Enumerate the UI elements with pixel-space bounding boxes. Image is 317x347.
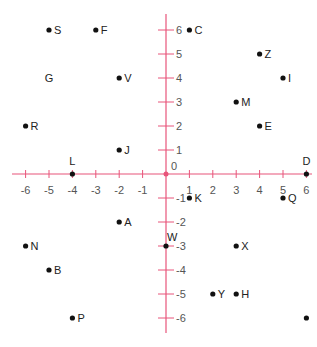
point-label: W (167, 231, 178, 243)
y-tick-label: -2 (176, 216, 186, 228)
point-r: R (23, 120, 39, 132)
point-n: N (23, 240, 39, 252)
point-dot (210, 291, 215, 296)
point-s: S (46, 24, 61, 36)
point-dot (234, 291, 239, 296)
point-label: Z (265, 48, 272, 60)
point-dot (234, 99, 239, 104)
point-dot (70, 315, 75, 320)
x-tick-label: -5 (44, 184, 54, 196)
point-dot (304, 315, 309, 320)
x-tick-label: 4 (257, 184, 263, 196)
y-tick-label: 2 (176, 120, 182, 132)
point-label: L (69, 155, 75, 167)
point-dot (117, 147, 122, 152)
point-x: X (234, 240, 250, 252)
point-d: D (302, 155, 310, 177)
point-dot (187, 27, 192, 32)
point-z: Z (257, 48, 272, 60)
point-v: V (117, 72, 133, 84)
point-label: Y (218, 288, 226, 300)
point-label: H (241, 288, 249, 300)
point-p: P (70, 312, 85, 324)
point-f: F (93, 24, 108, 36)
y-tick-label: 6 (176, 24, 182, 36)
x-tick-label: -2 (114, 184, 124, 196)
point-dot (117, 219, 122, 224)
y-tick-label: -5 (176, 288, 186, 300)
point-label: D (302, 155, 310, 167)
point-label: I (288, 72, 291, 84)
point-dot (257, 123, 262, 128)
point-label: C (194, 24, 202, 36)
point-y: Y (210, 288, 226, 300)
point-dot (280, 195, 285, 200)
y-tick-label: 3 (176, 96, 182, 108)
x-tick-label: -6 (21, 184, 31, 196)
y-tick-label: -3 (176, 240, 186, 252)
x-tick-label: 2 (210, 184, 216, 196)
x-tick-label: 1 (186, 184, 192, 196)
x-tick-label: -1 (138, 184, 148, 196)
point-label: K (194, 192, 202, 204)
point-dot (280, 75, 285, 80)
x-tick-label: -4 (68, 184, 78, 196)
x-tick-label: 6 (303, 184, 309, 196)
axes (12, 14, 312, 333)
coordinate-plane: -6-5-4-3-2-1123456-6-5-4-3-2-11234560 SF… (0, 0, 317, 347)
y-tick-label: -1 (176, 192, 186, 204)
point-label: F (101, 24, 108, 36)
point-label: M (241, 96, 250, 108)
origin-label: 0 (171, 160, 177, 172)
point-dot (70, 171, 75, 176)
point-a: A (117, 216, 133, 228)
point-unlabeled (304, 315, 309, 320)
point-b: B (46, 264, 61, 276)
point-m: M (234, 96, 251, 108)
point-label: S (54, 24, 61, 36)
point-c: C (187, 24, 203, 36)
point-label: V (124, 72, 132, 84)
point-label: Q (288, 192, 297, 204)
point-label: A (124, 216, 132, 228)
point-label: B (54, 264, 61, 276)
point-dot (23, 243, 28, 248)
point-dot (23, 123, 28, 128)
point-dot (163, 243, 168, 248)
point-label: J (124, 144, 130, 156)
point-dot (46, 27, 51, 32)
point-dot (187, 195, 192, 200)
point-dot (46, 267, 51, 272)
point-label: N (31, 240, 39, 252)
point-dot (257, 51, 262, 56)
point-j: J (117, 144, 130, 156)
point-i: I (280, 72, 291, 84)
point-dot (93, 27, 98, 32)
point-label: X (241, 240, 249, 252)
point-h: H (234, 288, 250, 300)
point-g: G (45, 72, 54, 84)
y-tick-label: 1 (176, 144, 182, 156)
point-label: P (77, 312, 84, 324)
point-l: L (69, 155, 75, 177)
point-label: R (31, 120, 39, 132)
y-tick-label: -4 (176, 264, 186, 276)
origin-marker (164, 172, 169, 177)
point-dot (304, 171, 309, 176)
x-tick-label: -3 (91, 184, 101, 196)
point-dot (117, 75, 122, 80)
x-tick-label: 5 (280, 184, 286, 196)
y-tick-label: -6 (176, 312, 186, 324)
point-label: E (265, 120, 272, 132)
point-dot (234, 243, 239, 248)
y-tick-label: 5 (176, 48, 182, 60)
point-e: E (257, 120, 272, 132)
point-label: G (45, 72, 54, 84)
y-tick-label: 4 (176, 72, 182, 84)
x-tick-label: 3 (233, 184, 239, 196)
